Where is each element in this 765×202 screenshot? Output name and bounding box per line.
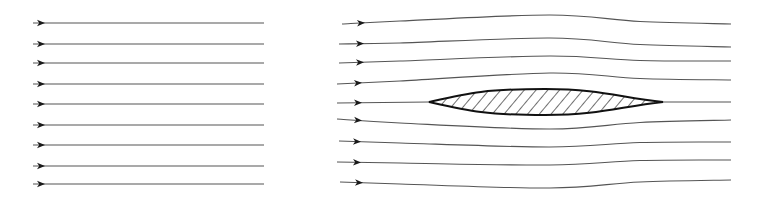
airfoil-body	[429, 89, 663, 115]
streamline	[337, 160, 731, 165]
streamline	[340, 180, 731, 188]
streamline	[337, 73, 731, 84]
streamline	[342, 15, 731, 24]
streamline	[337, 102, 429, 103]
streamline	[337, 119, 731, 129]
streamline	[339, 38, 731, 47]
diagram-canvas	[0, 0, 765, 202]
airfoil-flow-panel	[337, 15, 731, 188]
streamline	[339, 141, 731, 147]
flow-diagram	[0, 0, 765, 202]
uniform-flow-panel	[33, 20, 264, 188]
streamline	[339, 56, 731, 63]
